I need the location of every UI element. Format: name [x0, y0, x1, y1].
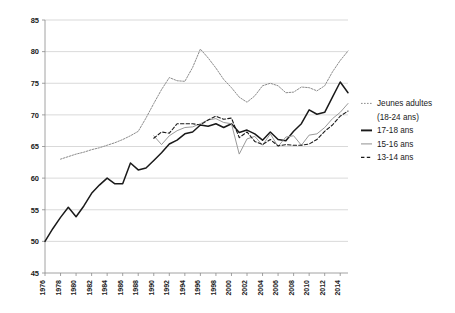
x-tick-label: 2012 — [319, 280, 326, 296]
chart-canvas: 455055606570758085 197619781980198219841… — [0, 0, 455, 313]
x-tick-label: 1976 — [39, 280, 46, 296]
x-tick-label: 1998 — [210, 280, 217, 296]
x-tick-label: 1996 — [194, 280, 201, 296]
x-tick-label: 1992 — [163, 280, 170, 296]
y-tick-label: 75 — [31, 79, 39, 88]
y-tick-label: 50 — [31, 237, 39, 246]
y-tick-label: 60 — [31, 174, 39, 183]
x-tick-label: 1990 — [148, 280, 155, 296]
x-tick-label: 1994 — [179, 280, 186, 296]
line-chart: 455055606570758085 197619781980198219841… — [0, 0, 455, 313]
legend-label: 17-18 ans — [377, 126, 413, 135]
legend-label: 15-16 ans — [377, 140, 413, 149]
x-tick-label: 1982 — [86, 280, 93, 296]
x-tick-label: 2000 — [225, 280, 232, 296]
y-tick-label: 55 — [31, 206, 39, 215]
y-tick-label: 70 — [31, 111, 39, 120]
legend-label: 13-14 ans — [377, 153, 413, 162]
y-tick-label: 85 — [31, 16, 39, 25]
y-tick-label: 80 — [31, 47, 39, 56]
data-series — [45, 49, 348, 241]
x-tick-label: 2006 — [272, 280, 279, 296]
x-axis-tick-labels: 1976197819801982198419861988199019921994… — [39, 273, 341, 296]
gridlines — [45, 20, 348, 241]
series-line-17-18-ans — [45, 82, 348, 241]
x-tick-label: 2002 — [241, 280, 248, 296]
x-tick-label: 1984 — [101, 280, 108, 296]
chart-legend: Jeunes adultes(18-24 ans)17-18 ans15-16 … — [361, 99, 432, 162]
series-line-jeunes-adultes — [61, 49, 348, 159]
y-axis-tick-labels: 455055606570758085 — [31, 16, 45, 278]
legend-label: Jeunes adultes — [377, 99, 432, 108]
x-tick-label: 1988 — [132, 280, 139, 296]
y-tick-label: 45 — [31, 269, 39, 278]
x-tick-label: 1986 — [117, 280, 124, 296]
x-tick-label: 2004 — [257, 280, 264, 296]
legend-label-secondary: (18-24 ans) — [377, 113, 419, 122]
y-tick-label: 65 — [31, 142, 39, 151]
x-tick-label: 1980 — [70, 280, 77, 296]
x-tick-label: 2008 — [288, 280, 295, 296]
x-tick-label: 2014 — [334, 280, 341, 296]
x-tick-label: 2010 — [303, 280, 310, 296]
x-tick-label: 1978 — [55, 280, 62, 296]
